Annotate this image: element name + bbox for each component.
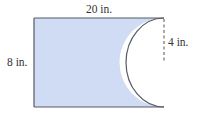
figure-canvas: 20 in. 8 in. 4 in. (0, 0, 199, 119)
width-label: 20 in. (86, 3, 112, 15)
height-label: 8 in. (7, 56, 28, 68)
shaded-region (34, 18, 164, 107)
radius-label: 4 in. (168, 36, 189, 48)
